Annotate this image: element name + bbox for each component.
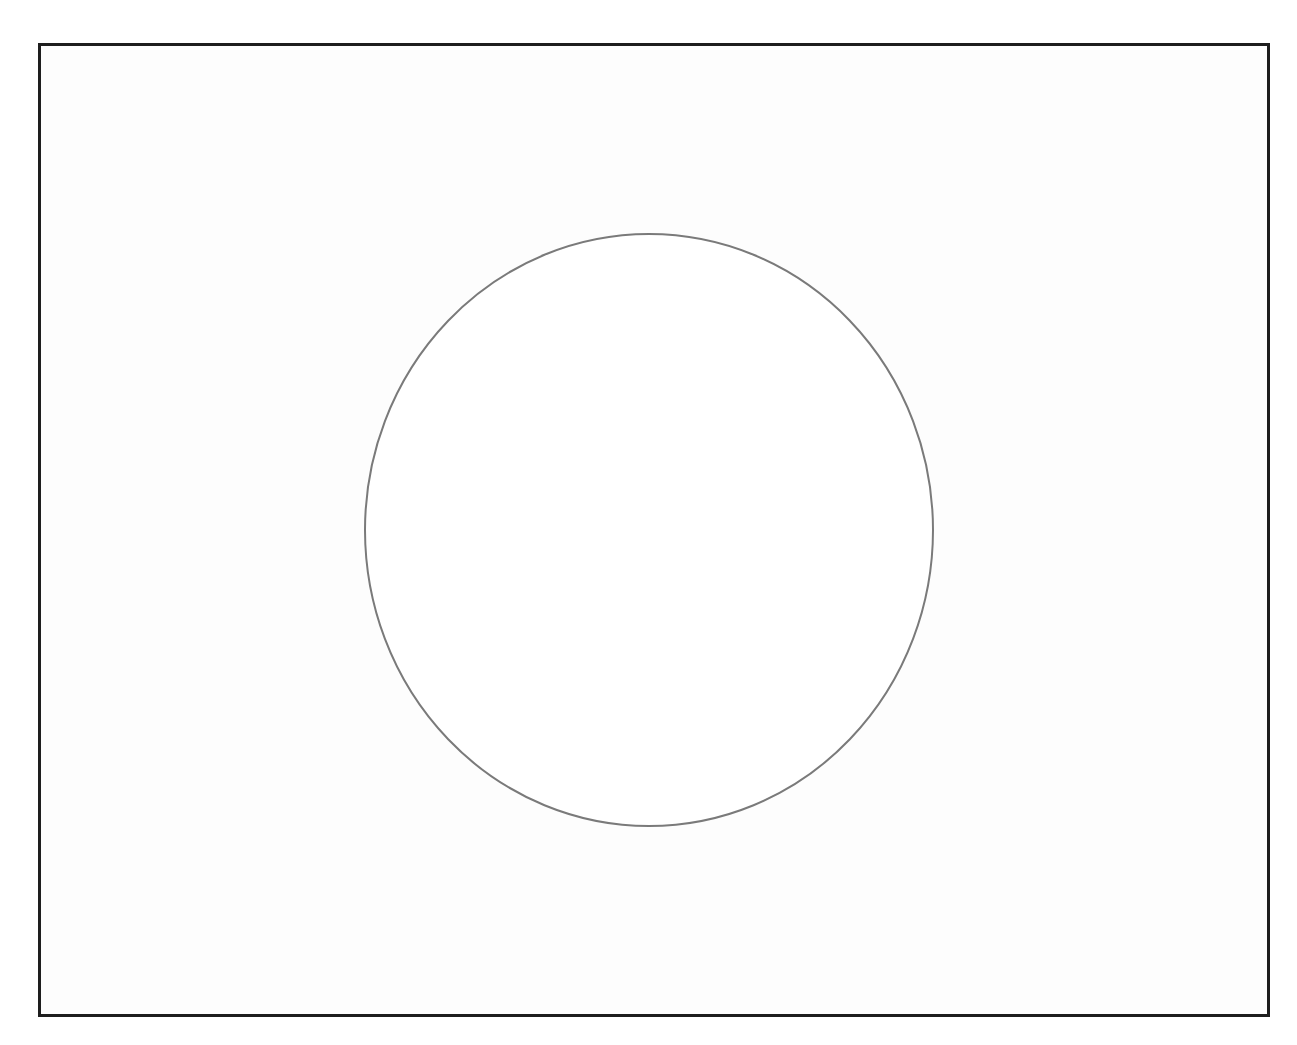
diagram-canvas bbox=[0, 0, 1297, 1045]
circle-shape bbox=[365, 234, 933, 826]
page bbox=[0, 0, 1297, 1045]
